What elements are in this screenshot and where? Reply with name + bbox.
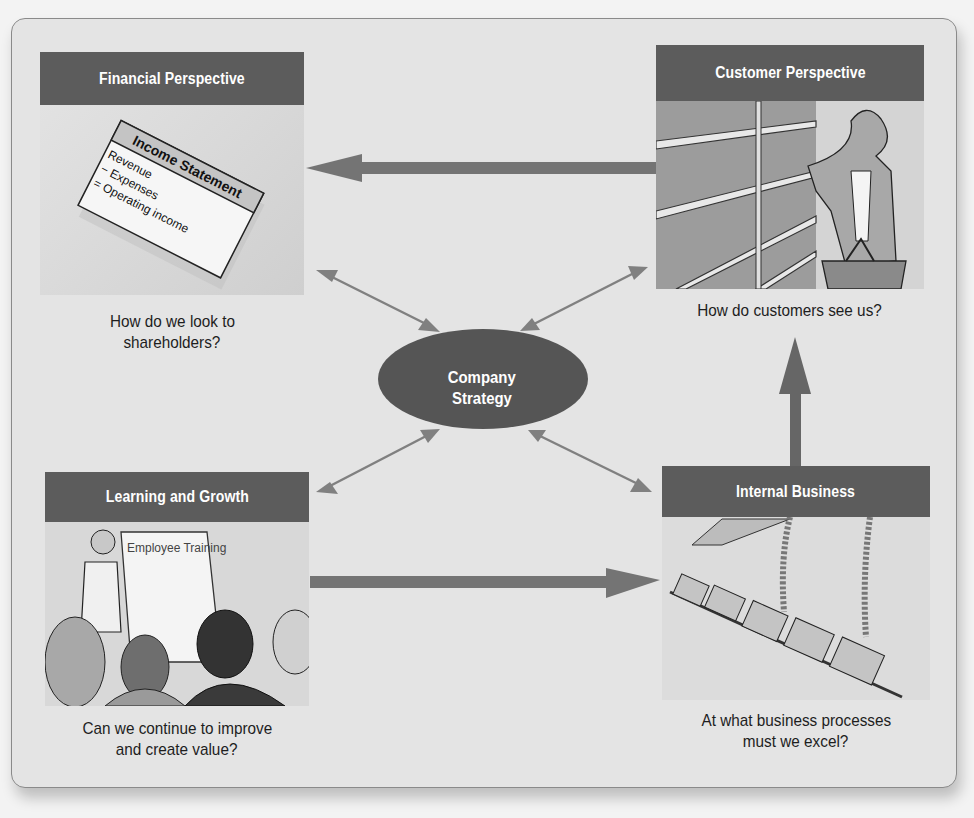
- customer-illustration: [656, 101, 924, 289]
- learning-caption: Can we continue to improve and create va…: [35, 718, 319, 760]
- learning-header-text: Learning and Growth: [105, 488, 248, 506]
- arrow-internal-to-customer: [779, 337, 811, 468]
- customer-caption-line1: How do customers see us?: [698, 300, 883, 321]
- strategy-line2: Strategy: [452, 388, 512, 409]
- financial-illustration: Income Statement Revenue − Expenses = Op…: [40, 105, 304, 295]
- internal-caption-line1: At what business processes: [701, 710, 891, 731]
- customer-header: Customer Perspective: [656, 45, 924, 101]
- assembly-line-icon: [662, 517, 930, 700]
- arrow-learning-to-internal: [310, 568, 660, 598]
- financial-header-text: Financial Perspective: [99, 70, 245, 88]
- double-arrow-strategy-customer: [520, 266, 648, 331]
- company-strategy-label: Company Strategy: [376, 338, 588, 438]
- employee-training-label: Employee Training: [127, 541, 226, 555]
- customer-header-text: Customer Perspective: [715, 64, 865, 82]
- training-icon: Employee Training: [45, 522, 309, 706]
- learning-illustration: Employee Training: [45, 522, 309, 706]
- financial-header: Financial Perspective: [40, 52, 304, 105]
- double-arrow-strategy-financial: [316, 270, 440, 332]
- strategy-line1: Company: [448, 367, 516, 388]
- customer-caption: How do customers see us?: [656, 300, 924, 321]
- internal-header-text: Internal Business: [737, 483, 856, 501]
- panel-learning: Learning and Growth Employee Training: [45, 472, 309, 706]
- income-statement-icon: Income Statement Revenue − Expenses = Op…: [40, 105, 304, 295]
- learning-caption-line1: Can we continue to improve: [82, 718, 272, 739]
- financial-caption-line2: shareholders?: [124, 332, 221, 353]
- internal-illustration: [662, 517, 930, 700]
- panel-financial: Financial Perspective Income Statement R…: [40, 52, 304, 296]
- arrow-customer-to-financial: [306, 154, 658, 182]
- internal-caption-line2: must we excel?: [743, 731, 848, 752]
- financial-caption: How do we look to shareholders?: [40, 311, 304, 353]
- internal-header: Internal Business: [662, 466, 930, 517]
- panel-customer: Customer Perspective: [656, 45, 924, 289]
- learning-caption-line2: and create value?: [116, 739, 238, 760]
- financial-caption-line1: How do we look to: [109, 311, 234, 332]
- panel-internal: Internal Business: [662, 466, 930, 700]
- double-arrow-strategy-learning: [316, 429, 440, 494]
- learning-header: Learning and Growth: [45, 472, 309, 522]
- double-arrow-strategy-internal: [528, 430, 652, 492]
- internal-caption: At what business processes must we excel…: [652, 710, 940, 752]
- shopper-icon: [656, 101, 924, 289]
